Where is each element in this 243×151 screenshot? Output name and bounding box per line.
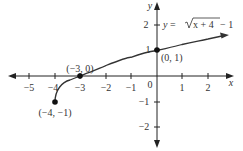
graph-canvas: −5 −4 −3 −2 −1 0 1 2 x 2 1 −1 −2 y (0, 0, 243, 151)
y-tick-label: −2 (139, 121, 150, 132)
point-marker (77, 73, 83, 79)
y-axis-up-arrow-icon (154, 2, 160, 10)
curve-arrow-icon (220, 33, 229, 39)
y-tick-label: 1 (146, 44, 151, 55)
origin-label: 0 (148, 79, 153, 90)
x-tick-label: −5 (24, 82, 35, 93)
y-axis-down-arrow-icon (154, 140, 160, 148)
equation-label: y = x + 4 − 1 (162, 18, 233, 30)
y-axis-label: y (147, 0, 153, 11)
x-tick-label: −1 (126, 82, 137, 93)
point-marker (154, 47, 160, 53)
x-tick-label: 2 (206, 82, 211, 93)
x-tick-label: −2 (101, 82, 112, 93)
point-marker (52, 99, 58, 105)
equation-radicand: x + 4 (193, 19, 214, 30)
y-tick-label: −1 (139, 96, 150, 107)
x-tick-label: −3 (75, 82, 86, 93)
x-axis-label: x (228, 77, 234, 88)
point-label: (−4, −1) (39, 107, 72, 119)
svg-text:y =: y = (162, 19, 176, 30)
point-label: (−3, 0) (66, 63, 93, 75)
x-axis: −5 −4 −3 −2 −1 0 1 2 x (8, 73, 234, 93)
x-axis-left-arrow-icon (8, 73, 16, 79)
equation-constant: − 1 (220, 19, 233, 30)
y-axis: 2 1 −1 −2 y (139, 0, 160, 148)
y-tick-label: 2 (144, 19, 149, 30)
x-tick-label: 1 (180, 82, 185, 93)
point-label: (0, 1) (161, 52, 183, 64)
